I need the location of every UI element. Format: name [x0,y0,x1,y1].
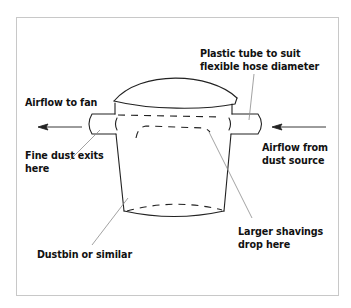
label-larger-shavings: Larger shavings drop here [238,225,323,251]
lid-rim [114,98,237,108]
bucket-bottom [124,211,224,217]
left-pipe [89,114,116,134]
arrow-from-source-head [272,124,282,130]
bucket-right-wall [224,104,232,211]
leader-dustbin [92,198,128,245]
dashed-inner-tube [136,126,210,138]
label-fine-dust: Fine dust exits here [25,149,104,175]
lid-dome [114,78,237,101]
label-airflow-from: Airflow from dust source [262,141,328,167]
right-pipe [231,114,262,134]
label-plastic-tube: Plastic tube to suit flexible hose diame… [200,47,319,73]
leader-plastic-tube [249,74,254,120]
label-airflow-to-fan: Airflow to fan [25,96,97,109]
dashed-bin-base [127,204,222,211]
arrow-to-fan-head [38,124,48,130]
label-dustbin: Dustbin or similar [37,248,132,261]
dashed-top-tube [118,115,222,117]
